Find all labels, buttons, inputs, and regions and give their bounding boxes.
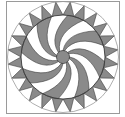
quilt-figure [0,0,125,117]
center-hub [57,51,70,64]
quilt-block-graphic [0,0,125,117]
